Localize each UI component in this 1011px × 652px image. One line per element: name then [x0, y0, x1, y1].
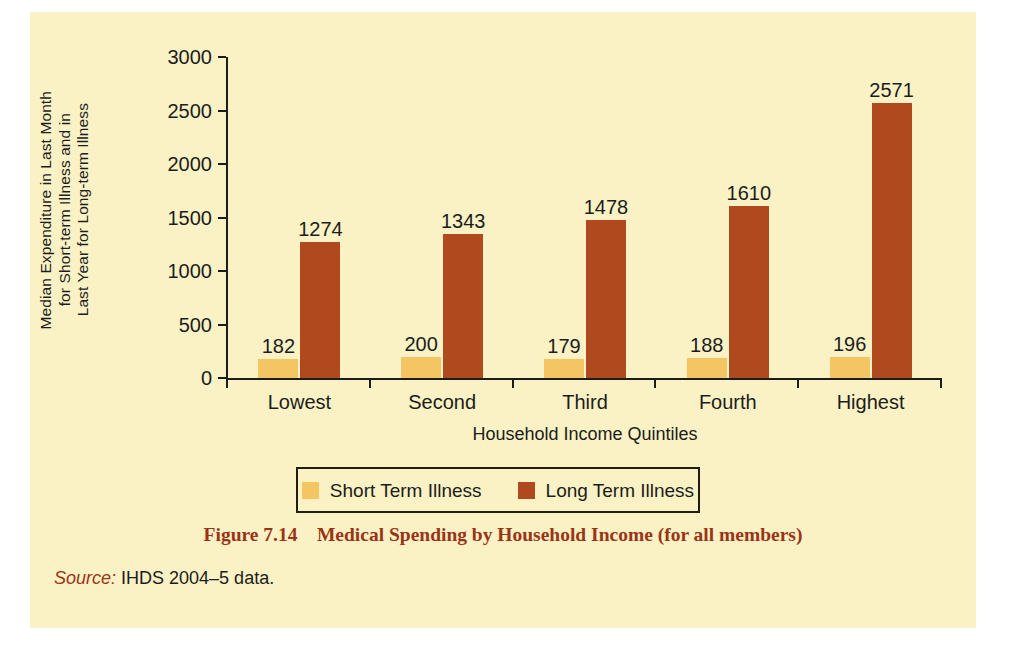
x-axis-category-label: Third	[514, 392, 657, 420]
x-axis-tick-mark	[369, 380, 371, 388]
x-axis-category-label: Highest	[799, 392, 942, 420]
bar[interactable]: 200	[401, 357, 441, 378]
bar-group: 1821274	[228, 56, 371, 378]
bars-layer: 18212742001343179147818816101962571	[228, 57, 942, 378]
y-axis-tick-mark	[218, 56, 226, 58]
bar[interactable]: 196	[830, 357, 870, 378]
bar-group: 1881610	[656, 56, 799, 378]
y-axis-tick-label: 1500	[150, 208, 212, 228]
bar[interactable]: 182	[258, 359, 298, 378]
legend-item[interactable]: Long Term Illness	[518, 481, 695, 500]
bar-value-label: 1610	[727, 183, 772, 203]
x-axis-tick-mark	[512, 380, 514, 388]
bar-value-label: 179	[547, 336, 580, 356]
bar-value-label: 188	[690, 335, 723, 355]
y-axis-tick-label: 2500	[150, 101, 212, 121]
legend-label: Long Term Illness	[546, 481, 695, 500]
legend-swatch-icon	[518, 482, 535, 499]
y-axis-title-line-2: for Short-term Illness and in	[57, 113, 73, 306]
figure-caption: Figure 7.14 Medical Spending by Househol…	[30, 524, 976, 546]
y-axis-tick-mark	[218, 217, 226, 219]
y-axis-tick-label: 1000	[150, 261, 212, 281]
bar-value-label: 2571	[869, 80, 914, 100]
bar[interactable]: 1610	[729, 206, 769, 378]
bar-value-label: 1343	[441, 211, 486, 231]
bar[interactable]: 2571	[872, 103, 912, 378]
y-axis-title-line-3: Last Year for Long-term Illness	[75, 103, 91, 316]
bar[interactable]: 179	[544, 359, 584, 378]
y-axis-tick-label: 0	[150, 368, 212, 388]
bar-value-label: 1478	[584, 197, 629, 217]
bar-value-label: 200	[405, 334, 438, 354]
x-axis-category-label: Fourth	[656, 392, 799, 420]
bar[interactable]: 1274	[300, 242, 340, 378]
y-axis-tick-mark	[218, 110, 226, 112]
y-axis-title: Median Expenditure in Last Month for Sho…	[38, 30, 158, 390]
x-axis-category-labels: LowestSecondThirdFourthHighest	[228, 392, 942, 420]
y-axis-tick-label: 3000	[150, 47, 212, 67]
source-value: IHDS 2004–5 data.	[116, 568, 274, 588]
y-axis-tick-mark	[218, 324, 226, 326]
source-label: Source:	[54, 568, 116, 588]
bar-value-label: 182	[262, 336, 295, 356]
x-axis-tick-mark	[797, 380, 799, 388]
y-axis-tick-mark	[218, 377, 226, 379]
x-axis-tick-mark	[226, 380, 228, 388]
figure-panel: Median Expenditure in Last Month for Sho…	[30, 12, 976, 628]
bar-group: 1791478	[514, 56, 657, 378]
bar-value-label: 196	[833, 334, 866, 354]
bar-value-label: 1274	[298, 219, 343, 239]
x-axis-line	[226, 378, 942, 380]
bar[interactable]: 188	[687, 358, 727, 378]
y-axis-tick-label: 2000	[150, 154, 212, 174]
plot-area: Median Expenditure in Last Month for Sho…	[30, 12, 976, 442]
bar-group: 1962571	[799, 56, 942, 378]
x-axis-title: Household Income Quintiles	[228, 424, 942, 445]
figure-container: Median Expenditure in Last Month for Sho…	[0, 0, 1011, 652]
y-axis-title-line-1: Median Expenditure in Last Month	[38, 91, 54, 329]
y-axis-tick-labels: 050010001500200025003000	[144, 12, 212, 442]
y-axis-tick-mark	[218, 270, 226, 272]
x-axis-tick-mark	[940, 380, 942, 388]
legend-swatch-icon	[302, 482, 319, 499]
chart-legend: Short Term IllnessLong Term Illness	[296, 467, 700, 513]
x-axis-tick-mark	[654, 380, 656, 388]
x-axis-category-label: Second	[371, 392, 514, 420]
bar-group: 2001343	[371, 56, 514, 378]
y-axis-tick-mark	[218, 163, 226, 165]
legend-label: Short Term Illness	[330, 481, 482, 500]
bar[interactable]: 1478	[586, 220, 626, 378]
source-line: Source: IHDS 2004–5 data.	[54, 568, 274, 589]
y-axis-tick-label: 500	[150, 315, 212, 335]
bar[interactable]: 1343	[443, 234, 483, 378]
x-axis-category-label: Lowest	[228, 392, 371, 420]
legend-item[interactable]: Short Term Illness	[302, 481, 482, 500]
